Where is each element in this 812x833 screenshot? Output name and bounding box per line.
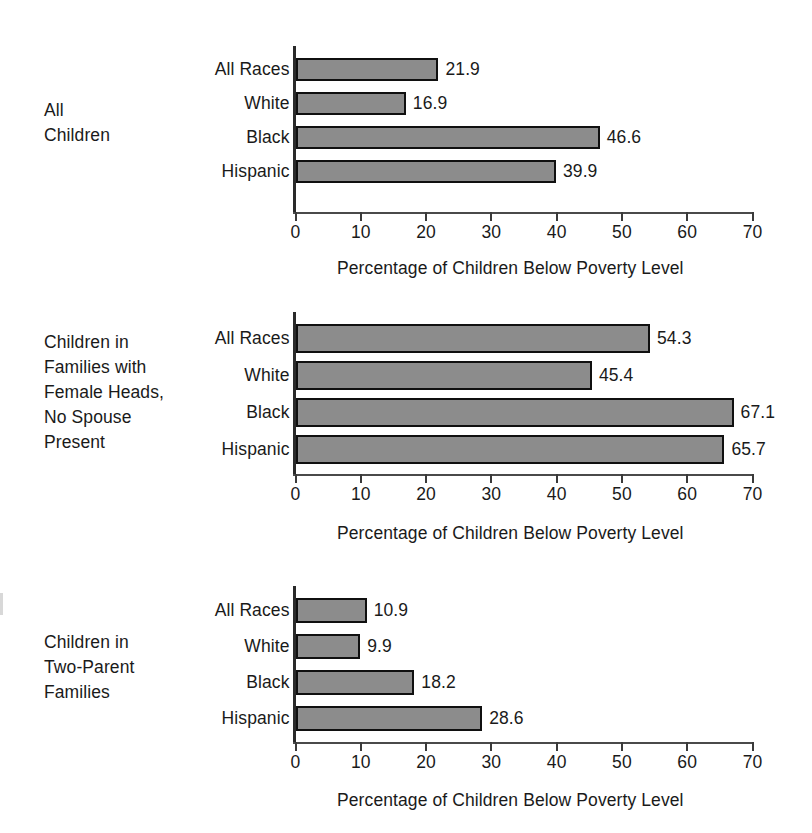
x-axis-tick bbox=[490, 212, 492, 221]
category-label: Black bbox=[90, 129, 290, 147]
x-axis-tick-label: 50 bbox=[612, 224, 632, 242]
x-axis-tick bbox=[425, 474, 427, 483]
panel-group-caption: Children in Families with Female Heads, … bbox=[44, 330, 254, 455]
scan-artifact-left bbox=[0, 593, 3, 615]
category-label: Hispanic bbox=[90, 441, 290, 459]
bar bbox=[296, 634, 361, 659]
x-axis-title: Percentage of Children Below Poverty Lev… bbox=[337, 792, 684, 810]
y-axis-line bbox=[293, 312, 296, 474]
category-label: All Races bbox=[90, 330, 290, 348]
x-axis-line bbox=[293, 474, 753, 476]
x-axis-tick-label: 30 bbox=[482, 224, 502, 242]
bar bbox=[296, 160, 556, 183]
bar bbox=[296, 706, 483, 731]
x-axis-tick bbox=[360, 212, 362, 221]
x-axis-tick bbox=[752, 474, 754, 483]
x-axis-title: Percentage of Children Below Poverty Lev… bbox=[337, 525, 684, 543]
x-axis-tick-label: 70 bbox=[743, 224, 763, 242]
x-axis-tick-label: 20 bbox=[416, 754, 436, 772]
x-axis-tick bbox=[360, 742, 362, 751]
bar bbox=[296, 598, 367, 623]
x-axis-tick-label: 0 bbox=[291, 486, 301, 504]
x-axis-tick-label: 10 bbox=[351, 224, 371, 242]
category-label: All Races bbox=[90, 61, 290, 79]
x-axis-tick bbox=[490, 474, 492, 483]
bar bbox=[296, 92, 406, 115]
x-axis-tick bbox=[295, 212, 297, 221]
category-label: White bbox=[90, 638, 290, 656]
x-axis-tick bbox=[425, 212, 427, 221]
x-axis-tick-label: 0 bbox=[291, 754, 301, 772]
y-axis-line bbox=[293, 46, 296, 212]
bar bbox=[296, 670, 415, 695]
x-axis-tick bbox=[295, 742, 297, 751]
x-axis-tick bbox=[425, 742, 427, 751]
bar-value-label: 45.4 bbox=[599, 367, 633, 385]
bar-value-label: 9.9 bbox=[367, 638, 392, 656]
x-axis-tick-label: 50 bbox=[612, 754, 632, 772]
x-axis-title: Percentage of Children Below Poverty Lev… bbox=[337, 260, 684, 278]
bar-value-label: 39.9 bbox=[563, 163, 597, 181]
x-axis-tick bbox=[621, 742, 623, 751]
category-label: Black bbox=[90, 404, 290, 422]
x-axis-tick-label: 20 bbox=[416, 224, 436, 242]
x-axis-tick-label: 60 bbox=[677, 486, 697, 504]
x-axis-tick-label: 60 bbox=[677, 224, 697, 242]
x-axis-tick bbox=[621, 474, 623, 483]
category-label: Hispanic bbox=[90, 710, 290, 728]
x-axis-tick-label: 0 bbox=[291, 224, 301, 242]
x-axis-tick-label: 20 bbox=[416, 486, 436, 504]
x-axis-tick-label: 50 bbox=[612, 486, 632, 504]
x-axis-line bbox=[293, 742, 753, 744]
x-axis-tick bbox=[752, 742, 754, 751]
x-axis-tick-label: 30 bbox=[482, 486, 502, 504]
bar-value-label: 28.6 bbox=[489, 710, 523, 728]
x-axis-tick bbox=[621, 212, 623, 221]
x-axis-tick-label: 60 bbox=[677, 754, 697, 772]
bar bbox=[296, 398, 734, 427]
x-axis-tick bbox=[360, 474, 362, 483]
x-axis-tick-label: 10 bbox=[351, 486, 371, 504]
x-axis-tick bbox=[556, 212, 558, 221]
x-axis-tick bbox=[556, 474, 558, 483]
bar-value-label: 18.2 bbox=[421, 674, 455, 692]
category-label: White bbox=[90, 95, 290, 113]
x-axis-tick bbox=[556, 742, 558, 751]
bar-value-label: 65.7 bbox=[731, 441, 765, 459]
bar bbox=[296, 361, 592, 390]
x-axis-tick bbox=[686, 742, 688, 751]
bar-value-label: 67.1 bbox=[741, 404, 775, 422]
x-axis-tick-label: 40 bbox=[547, 754, 567, 772]
x-axis-tick-label: 70 bbox=[743, 486, 763, 504]
bar bbox=[296, 435, 725, 464]
x-axis-tick-label: 10 bbox=[351, 754, 371, 772]
category-label: Hispanic bbox=[90, 163, 290, 181]
x-axis-tick-label: 70 bbox=[743, 754, 763, 772]
x-axis-tick-label: 40 bbox=[547, 486, 567, 504]
bar bbox=[296, 58, 439, 81]
x-axis-line bbox=[293, 212, 753, 214]
x-axis-tick-label: 40 bbox=[547, 224, 567, 242]
category-label: Black bbox=[90, 674, 290, 692]
x-axis-tick bbox=[490, 742, 492, 751]
bar-value-label: 46.6 bbox=[607, 129, 641, 147]
category-label: White bbox=[90, 367, 290, 385]
x-axis-tick bbox=[295, 474, 297, 483]
bar bbox=[296, 126, 600, 149]
bar-value-label: 21.9 bbox=[445, 61, 479, 79]
bar-value-label: 16.9 bbox=[413, 95, 447, 113]
bar-value-label: 10.9 bbox=[374, 602, 408, 620]
x-axis-tick-label: 30 bbox=[482, 754, 502, 772]
bar-value-label: 54.3 bbox=[657, 330, 691, 348]
category-label: All Races bbox=[90, 602, 290, 620]
x-axis-tick bbox=[686, 474, 688, 483]
y-axis-line bbox=[293, 586, 296, 742]
bar bbox=[296, 324, 651, 353]
x-axis-tick bbox=[686, 212, 688, 221]
x-axis-tick bbox=[752, 212, 754, 221]
